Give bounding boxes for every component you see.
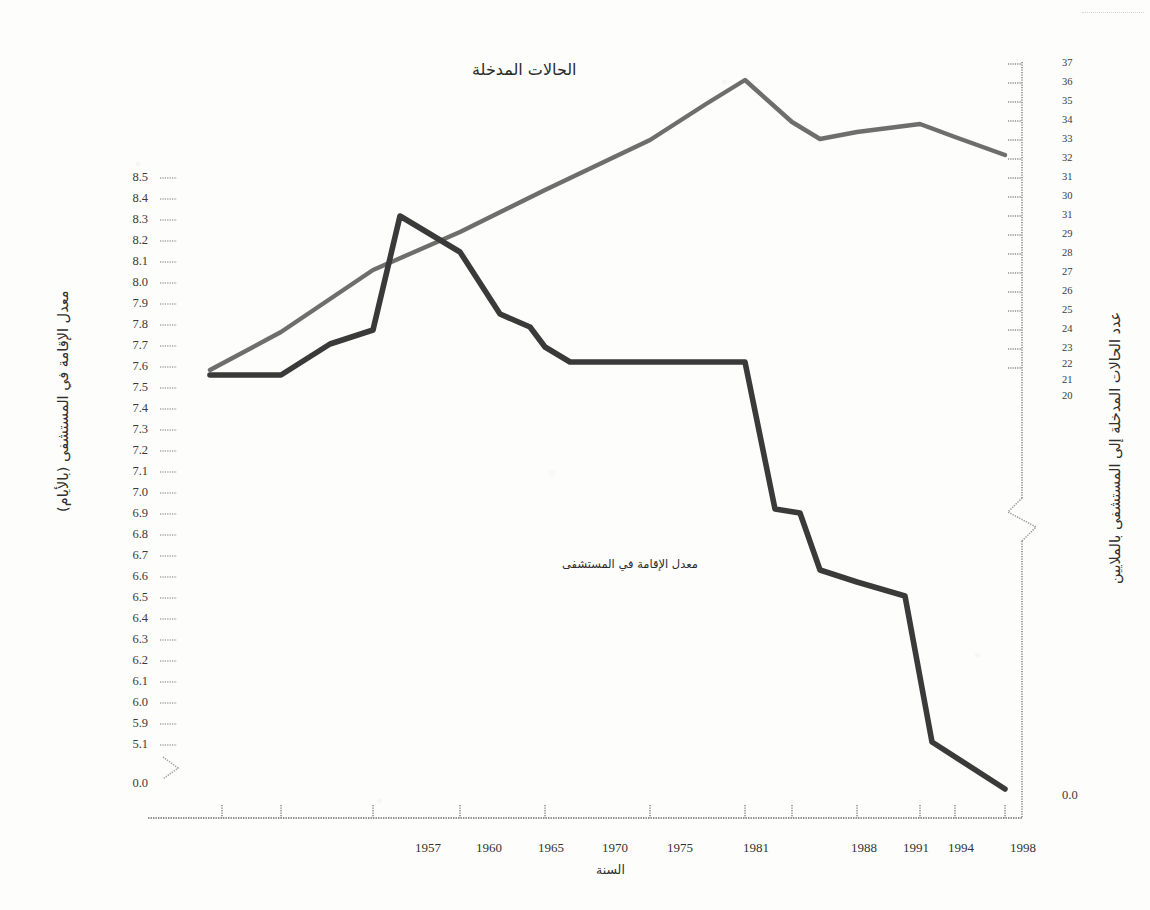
ytick-right-2: 35	[1062, 96, 1092, 107]
ytick-right-5: 32	[1062, 153, 1092, 164]
ytick-right-9: 29	[1062, 229, 1092, 240]
ytick-right-15: 23	[1062, 343, 1092, 354]
xtick-1994: 1994	[938, 841, 984, 854]
ytick-left-7: 7.8	[108, 318, 148, 331]
xtick-1965: 1965	[528, 841, 574, 854]
left-axis-break	[163, 757, 178, 779]
ytick-left-17: 6.8	[108, 528, 148, 541]
series-label-stay-rate: معدل الإقامة في المستشفى	[562, 559, 698, 571]
ytick-right-zero: 0.0	[1062, 789, 1096, 802]
ytick-right-0: 37	[1062, 58, 1092, 69]
xtick-1970: 1970	[592, 841, 638, 854]
ytick-right-12: 26	[1062, 286, 1092, 297]
ytick-right-17: 21	[1062, 375, 1092, 386]
ytick-left-15: 7.0	[108, 486, 148, 499]
ytick-right-1: 36	[1062, 77, 1092, 88]
xtick-1975: 1975	[657, 841, 703, 854]
xtick-1998: 1998	[1000, 841, 1046, 854]
series-line-admitted	[210, 80, 1005, 370]
ytick-left-6: 7.9	[108, 297, 148, 310]
ytick-right-4: 33	[1062, 134, 1092, 145]
chart-canvas	[0, 0, 1150, 910]
ytick-left-24: 6.1	[108, 675, 148, 688]
ytick-left-9: 7.6	[108, 360, 148, 373]
y-axis-left-title: معدل الإقامة في المستشفى (بالأيام)	[56, 290, 71, 512]
ytick-left-10: 7.5	[108, 381, 148, 394]
ytick-right-11: 27	[1062, 267, 1092, 278]
ytick-left-21: 6.4	[108, 612, 148, 625]
ytick-left-20: 6.5	[108, 591, 148, 604]
ytick-left-14: 7.1	[108, 465, 148, 478]
ytick-left-13: 7.2	[108, 444, 148, 457]
x-axis-title: السنة	[596, 864, 625, 877]
xtick-1957: 1957	[405, 841, 451, 854]
ytick-right-13: 25	[1062, 305, 1092, 316]
ytick-left-zero: 0.0	[108, 777, 148, 790]
ytick-left-18: 6.7	[108, 549, 148, 562]
ytick-left-25: 6.0	[108, 696, 148, 709]
x-axis	[148, 805, 1022, 818]
xtick-1981: 1981	[733, 841, 779, 854]
xtick-1988: 1988	[841, 841, 887, 854]
ytick-left-3: 8.2	[108, 234, 148, 247]
ytick-left-16: 6.9	[108, 507, 148, 520]
ytick-left-26: 5.9	[108, 717, 148, 730]
ytick-left-2: 8.3	[108, 213, 148, 226]
ytick-left-8: 7.7	[108, 339, 148, 352]
ytick-left-1: 8.4	[108, 192, 148, 205]
ytick-right-14: 24	[1062, 324, 1092, 335]
y-axis-right-title: عدد الحالات المدخلة إلى المستشفى بالملاي…	[1108, 312, 1123, 584]
ytick-left-19: 6.6	[108, 570, 148, 583]
ytick-left-23: 6.2	[108, 654, 148, 667]
y-axis-left-ticks	[160, 178, 177, 745]
xtick-1991: 1991	[893, 841, 939, 854]
ytick-right-18: 20	[1062, 391, 1092, 402]
ytick-left-0: 8.5	[108, 171, 148, 184]
y-axis-right	[1008, 62, 1036, 818]
ytick-left-11: 7.4	[108, 402, 148, 415]
ytick-right-8: 31	[1062, 210, 1092, 221]
ytick-left-22: 6.3	[108, 633, 148, 646]
ytick-right-3: 34	[1062, 115, 1092, 126]
ytick-right-6: 31	[1062, 172, 1092, 183]
ytick-right-7: 30	[1062, 191, 1092, 202]
ytick-left-27: 5.1	[108, 738, 148, 751]
ytick-left-5: 8.0	[108, 276, 148, 289]
xtick-1960: 1960	[466, 841, 512, 854]
chart-page: 8.5 8.4 8.3 8.2 8.1 8.0 7.9 7.8 7.7 7.6 …	[0, 0, 1150, 910]
ytick-right-10: 28	[1062, 248, 1092, 259]
ytick-left-4: 8.1	[108, 255, 148, 268]
ytick-left-12: 7.3	[108, 423, 148, 436]
series-label-admitted: الحالات المدخلة	[472, 62, 577, 78]
ytick-right-16: 22	[1062, 359, 1092, 370]
